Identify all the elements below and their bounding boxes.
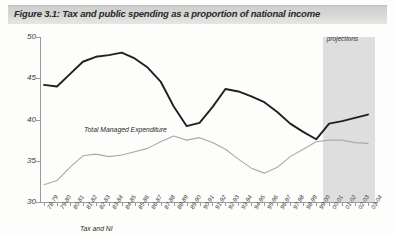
y-axis-tick-label: 30 bbox=[6, 197, 36, 206]
y-axis-tick-label: 40 bbox=[6, 115, 36, 124]
y-axis-tick bbox=[36, 202, 40, 203]
x-axis-tick bbox=[355, 202, 356, 206]
x-axis-tick bbox=[174, 202, 175, 206]
figure-container: Figure 3.1: Tax and public spending as a… bbox=[0, 0, 395, 236]
x-axis-tick bbox=[264, 202, 265, 206]
x-axis-tick bbox=[57, 202, 58, 206]
x-axis-tick bbox=[303, 202, 304, 206]
x-axis-tick bbox=[109, 202, 110, 206]
x-axis-tick bbox=[368, 202, 369, 206]
y-axis-labels: 3035404550 bbox=[0, 37, 36, 207]
x-axis-tick bbox=[148, 202, 149, 206]
x-axis-tick bbox=[225, 202, 226, 206]
page-title: Figure 3.1: Tax and public spending as a… bbox=[14, 8, 320, 19]
x-axis-tick bbox=[277, 202, 278, 206]
y-axis-tick bbox=[36, 78, 40, 79]
x-axis-tick bbox=[161, 202, 162, 206]
y-axis-tick bbox=[36, 161, 40, 162]
figure-title-bar: Figure 3.1: Tax and public spending as a… bbox=[8, 5, 387, 24]
x-axis-tick bbox=[290, 202, 291, 206]
series-label-total-managed-expenditure: Total Managed Expenditure bbox=[84, 126, 167, 133]
y-axis-tick-label: 45 bbox=[6, 73, 36, 82]
x-axis-tick bbox=[83, 202, 84, 206]
x-axis-tick bbox=[44, 202, 45, 206]
series-label-tax-and-ni: Tax and NI bbox=[80, 225, 113, 232]
x-axis-tick bbox=[187, 202, 188, 206]
x-axis-tick bbox=[122, 202, 123, 206]
y-axis-tick bbox=[36, 120, 40, 121]
x-axis-tick bbox=[70, 202, 71, 206]
x-axis-tick bbox=[135, 202, 136, 206]
x-axis-tick bbox=[342, 202, 343, 206]
y-axis-tick-label: 35 bbox=[6, 156, 36, 165]
x-axis-tick bbox=[251, 202, 252, 206]
x-axis-tick bbox=[329, 202, 330, 206]
y-axis-tick-label: 50 bbox=[6, 32, 36, 41]
x-axis-tick bbox=[96, 202, 97, 206]
series-lines bbox=[40, 37, 378, 202]
plot-area: projections Total Managed Expenditure Ta… bbox=[40, 37, 378, 202]
x-axis-tick bbox=[238, 202, 239, 206]
y-axis-tick bbox=[36, 37, 40, 38]
x-axis-tick bbox=[316, 202, 317, 206]
x-axis-tick bbox=[212, 202, 213, 206]
series-line-tax-and-ni bbox=[44, 136, 368, 185]
x-axis-tick bbox=[200, 202, 201, 206]
